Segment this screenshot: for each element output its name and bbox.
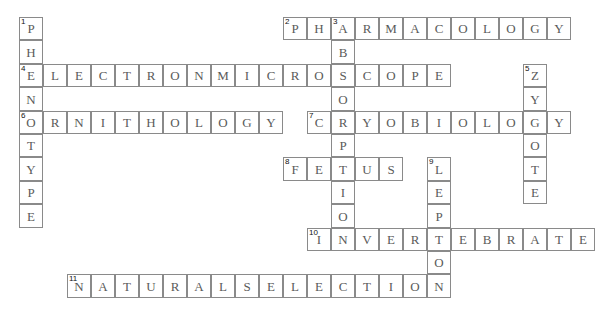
crossword-cell[interactable]: H	[307, 17, 331, 40]
crossword-cell[interactable]: R	[331, 111, 355, 134]
crossword-cell[interactable]: I	[91, 111, 115, 134]
crossword-cell[interactable]: E	[67, 64, 91, 87]
crossword-cell[interactable]: T	[115, 274, 139, 297]
crossword-cell[interactable]: O	[331, 87, 355, 110]
crossword-cell[interactable]: I	[379, 274, 403, 297]
crossword-cell[interactable]: L	[43, 64, 67, 87]
crossword-cell[interactable]: 11N	[67, 274, 91, 297]
crossword-cell[interactable]: N	[427, 274, 451, 297]
crossword-cell[interactable]: P	[403, 64, 427, 87]
crossword-cell[interactable]: O	[499, 111, 523, 134]
crossword-cell[interactable]: H	[19, 40, 43, 63]
crossword-cell[interactable]: I	[427, 111, 451, 134]
crossword-cell[interactable]: T	[331, 157, 355, 180]
crossword-cell[interactable]: 4E	[19, 64, 43, 87]
crossword-cell[interactable]: 6O	[19, 111, 43, 134]
crossword-cell[interactable]: N	[187, 64, 211, 87]
crossword-cell[interactable]: Y	[523, 87, 547, 110]
crossword-cell[interactable]: Y	[259, 111, 283, 134]
crossword-cell[interactable]: C	[331, 274, 355, 297]
crossword-cell[interactable]: P	[331, 134, 355, 157]
crossword-cell[interactable]: 7C	[307, 111, 331, 134]
crossword-cell[interactable]: T	[427, 228, 451, 251]
crossword-cell[interactable]: C	[355, 64, 379, 87]
crossword-cell[interactable]: O	[211, 111, 235, 134]
crossword-cell[interactable]: B	[331, 40, 355, 63]
crossword-cell[interactable]: O	[403, 274, 427, 297]
crossword-cell[interactable]: E	[451, 228, 475, 251]
crossword-cell[interactable]: O	[307, 64, 331, 87]
crossword-cell[interactable]: E	[571, 228, 595, 251]
crossword-cell[interactable]: T	[115, 111, 139, 134]
crossword-cell[interactable]: E	[427, 181, 451, 204]
crossword-cell[interactable]: R	[283, 64, 307, 87]
crossword-cell[interactable]: 3A	[331, 17, 355, 40]
crossword-cell[interactable]: N	[19, 87, 43, 110]
crossword-cell[interactable]: N	[331, 228, 355, 251]
crossword-cell[interactable]: O	[163, 111, 187, 134]
crossword-cell[interactable]: O	[451, 17, 475, 40]
crossword-cell[interactable]: E	[259, 274, 283, 297]
crossword-cell[interactable]: S	[331, 64, 355, 87]
crossword-cell[interactable]: V	[355, 228, 379, 251]
crossword-cell[interactable]: T	[19, 134, 43, 157]
crossword-cell[interactable]: G	[523, 111, 547, 134]
crossword-cell[interactable]: H	[139, 111, 163, 134]
crossword-cell[interactable]: 10I	[307, 228, 331, 251]
crossword-cell[interactable]: T	[115, 64, 139, 87]
crossword-cell[interactable]: A	[187, 274, 211, 297]
crossword-cell[interactable]: E	[307, 157, 331, 180]
crossword-cell[interactable]: T	[355, 274, 379, 297]
crossword-cell[interactable]: 9L	[427, 157, 451, 180]
crossword-cell[interactable]: N	[67, 111, 91, 134]
crossword-cell[interactable]: U	[355, 157, 379, 180]
crossword-cell[interactable]: L	[211, 274, 235, 297]
crossword-cell[interactable]: 5Z	[523, 64, 547, 87]
crossword-cell[interactable]: O	[427, 251, 451, 274]
crossword-cell[interactable]: R	[499, 228, 523, 251]
crossword-cell[interactable]: L	[475, 17, 499, 40]
crossword-cell[interactable]: S	[379, 157, 403, 180]
crossword-cell[interactable]: E	[427, 64, 451, 87]
crossword-cell[interactable]: C	[427, 17, 451, 40]
crossword-cell[interactable]: Y	[19, 157, 43, 180]
crossword-cell[interactable]: 8F	[283, 157, 307, 180]
crossword-cell[interactable]: B	[475, 228, 499, 251]
crossword-cell[interactable]: I	[331, 181, 355, 204]
crossword-cell[interactable]: A	[523, 228, 547, 251]
crossword-cell[interactable]: L	[475, 111, 499, 134]
crossword-cell[interactable]: A	[403, 17, 427, 40]
crossword-cell[interactable]: C	[91, 64, 115, 87]
crossword-cell[interactable]: R	[355, 17, 379, 40]
crossword-cell[interactable]: L	[283, 274, 307, 297]
crossword-cell[interactable]: Y	[547, 111, 571, 134]
crossword-cell[interactable]: E	[307, 274, 331, 297]
crossword-cell[interactable]: R	[403, 228, 427, 251]
crossword-cell[interactable]: O	[379, 64, 403, 87]
crossword-cell[interactable]: E	[379, 228, 403, 251]
crossword-cell[interactable]: 1P	[19, 17, 43, 40]
crossword-cell[interactable]: O	[379, 111, 403, 134]
crossword-cell[interactable]: T	[523, 157, 547, 180]
crossword-cell[interactable]: P	[19, 181, 43, 204]
crossword-cell[interactable]: B	[403, 111, 427, 134]
crossword-cell[interactable]: C	[259, 64, 283, 87]
crossword-cell[interactable]: M	[379, 17, 403, 40]
crossword-cell[interactable]: G	[235, 111, 259, 134]
crossword-cell[interactable]: O	[331, 204, 355, 227]
crossword-cell[interactable]: O	[451, 111, 475, 134]
crossword-cell[interactable]: O	[163, 64, 187, 87]
crossword-cell[interactable]: M	[211, 64, 235, 87]
crossword-cell[interactable]: S	[235, 274, 259, 297]
crossword-cell[interactable]: E	[523, 181, 547, 204]
crossword-cell[interactable]: R	[163, 274, 187, 297]
crossword-cell[interactable]: R	[43, 111, 67, 134]
crossword-cell[interactable]: L	[187, 111, 211, 134]
crossword-cell[interactable]: A	[91, 274, 115, 297]
crossword-cell[interactable]: R	[139, 64, 163, 87]
crossword-cell[interactable]: G	[523, 17, 547, 40]
crossword-cell[interactable]: Y	[355, 111, 379, 134]
crossword-cell[interactable]: O	[499, 17, 523, 40]
crossword-cell[interactable]: T	[547, 228, 571, 251]
crossword-cell[interactable]: P	[427, 204, 451, 227]
